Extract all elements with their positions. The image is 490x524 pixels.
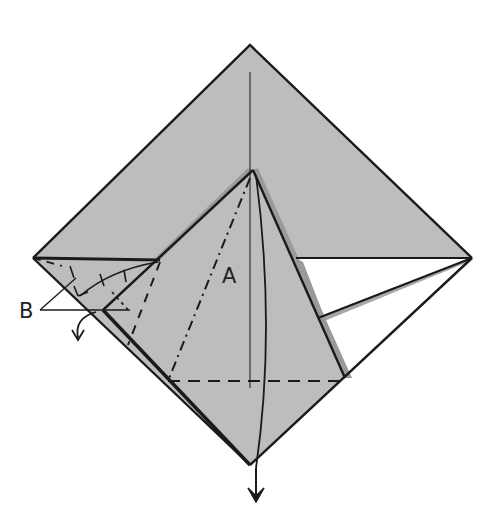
label-b: B [19,299,33,323]
origami-diagram: A B [0,0,490,524]
label-a: A [222,264,237,288]
paper-square [33,45,472,465]
horizontal-edge-left [33,258,160,260]
